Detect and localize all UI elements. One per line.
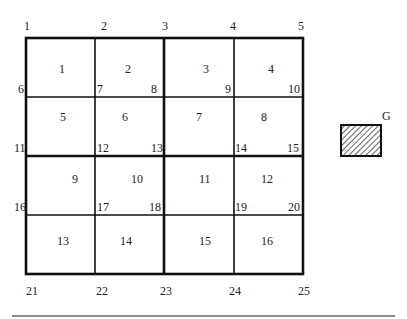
element-label: 9: [72, 172, 78, 186]
element-label: 11: [199, 172, 211, 186]
element-label: 5: [60, 110, 66, 124]
node-label: 20: [288, 200, 300, 214]
node-label: 24: [229, 284, 241, 298]
element-label: 8: [261, 110, 267, 124]
node-label: 25: [298, 284, 310, 298]
node-label: 1: [24, 19, 30, 33]
node-label: 16: [14, 200, 26, 214]
node-label: 21: [26, 284, 38, 298]
element-label: 16: [261, 234, 273, 248]
node-label: 10: [288, 82, 300, 96]
node-label: 4: [230, 19, 236, 33]
legend-g: G: [341, 109, 391, 156]
node-label: 9: [225, 82, 231, 96]
node-label: 5: [298, 19, 304, 33]
node-label: 17: [97, 200, 109, 214]
node-labels: 1 2 3 4 5 6 7 8 9 10 11 12 13 14 15 16 1…: [14, 19, 310, 298]
element-label: 1: [59, 62, 65, 76]
element-label: 7: [196, 110, 202, 124]
node-label: 3: [162, 19, 168, 33]
node-label: 13: [151, 141, 163, 155]
element-label: 2: [125, 62, 131, 76]
node-label: 11: [14, 141, 26, 155]
mesh-diagram: 1 2 3 4 5 6 7 8 9 10 11 12 13 14 15 16 1…: [0, 0, 407, 319]
element-label: 13: [57, 234, 69, 248]
element-label: 3: [203, 62, 209, 76]
node-label: 7: [97, 82, 103, 96]
legend-label: G: [382, 109, 391, 123]
node-label: 6: [18, 82, 24, 96]
node-label: 19: [235, 200, 247, 214]
element-label: 4: [268, 62, 274, 76]
hatched-box-icon: [341, 125, 381, 156]
element-label: 12: [261, 172, 273, 186]
element-label: 15: [199, 234, 211, 248]
node-label: 23: [160, 284, 172, 298]
node-label: 8: [151, 82, 157, 96]
element-label: 10: [131, 172, 143, 186]
node-label: 14: [235, 141, 247, 155]
node-label: 2: [101, 19, 107, 33]
element-label: 6: [122, 110, 128, 124]
node-label: 12: [97, 141, 109, 155]
node-label: 15: [287, 141, 299, 155]
node-label: 22: [96, 284, 108, 298]
element-label: 14: [120, 234, 132, 248]
node-label: 18: [149, 200, 161, 214]
